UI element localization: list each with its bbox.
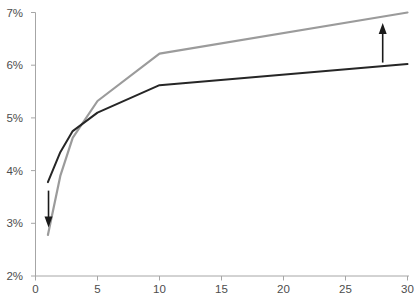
line-chart: 2%3%4%5%6%7%051015202530 [0, 0, 419, 306]
y-tick-label: 4% [6, 165, 23, 177]
x-tick-label: 0 [32, 283, 38, 295]
gray-line-series [48, 13, 408, 235]
x-tick-label: 5 [94, 283, 100, 295]
chart-canvas: 2%3%4%5%6%7%051015202530 [0, 0, 419, 306]
up-arrow-head [379, 23, 387, 34]
y-tick-label: 3% [6, 217, 23, 229]
x-tick-label: 20 [277, 283, 290, 295]
x-tick-label: 30 [401, 283, 414, 295]
y-tick-label: 5% [6, 112, 23, 124]
x-tick-label: 10 [153, 283, 166, 295]
x-tick-label: 25 [339, 283, 352, 295]
y-tick-label: 6% [6, 59, 23, 71]
y-tick-label: 2% [6, 270, 23, 282]
x-tick-label: 15 [215, 283, 228, 295]
black-line-series [48, 64, 408, 182]
y-tick-label: 7% [6, 7, 23, 19]
